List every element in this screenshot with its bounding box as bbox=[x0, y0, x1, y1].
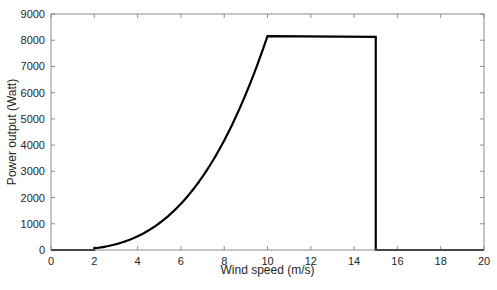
x-tick-label: 14 bbox=[348, 255, 360, 267]
y-tick-label: 8000 bbox=[21, 34, 45, 46]
y-tick-label: 2000 bbox=[21, 192, 45, 204]
y-tick-label: 6000 bbox=[21, 87, 45, 99]
x-tick-label: 0 bbox=[48, 255, 54, 267]
axes-box bbox=[51, 14, 484, 250]
x-tick-label: 6 bbox=[178, 255, 184, 267]
y-tick-label: 0 bbox=[39, 244, 45, 256]
x-tick-label: 16 bbox=[391, 255, 403, 267]
power-curve-line bbox=[51, 36, 484, 250]
x-axis-label: Wind speed (m/s) bbox=[220, 263, 314, 277]
x-tick-label: 4 bbox=[135, 255, 141, 267]
y-axis-ticks: 0100020003000400050006000700080009000 bbox=[21, 8, 484, 256]
y-axis-label: Power output (Watt) bbox=[5, 79, 19, 185]
x-tick-label: 18 bbox=[435, 255, 447, 267]
y-tick-label: 4000 bbox=[21, 139, 45, 151]
y-tick-label: 1000 bbox=[21, 218, 45, 230]
y-tick-label: 9000 bbox=[21, 8, 45, 20]
x-axis-ticks: 02468101214161820 bbox=[48, 14, 490, 267]
x-tick-label: 20 bbox=[478, 255, 490, 267]
power-curve-chart: 02468101214161820 0100020003000400050006… bbox=[0, 0, 497, 290]
y-tick-label: 3000 bbox=[21, 165, 45, 177]
y-tick-label: 5000 bbox=[21, 113, 45, 125]
x-tick-label: 2 bbox=[91, 255, 97, 267]
y-tick-label: 7000 bbox=[21, 60, 45, 72]
